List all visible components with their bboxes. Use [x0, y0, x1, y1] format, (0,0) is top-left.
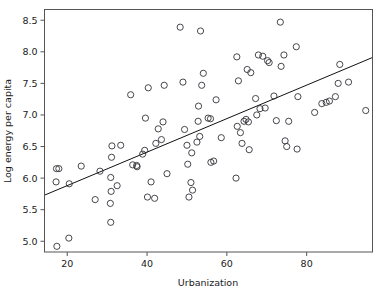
data-point: [234, 123, 240, 129]
data-point: [152, 195, 158, 201]
data-point: [148, 179, 154, 185]
data-point: [295, 94, 301, 100]
y-tick-label: 5.0: [22, 236, 37, 247]
data-point: [142, 147, 148, 153]
data-point: [239, 140, 245, 146]
data-point: [195, 118, 201, 124]
data-point: [363, 107, 369, 113]
data-point: [271, 93, 277, 99]
data-point: [108, 219, 114, 225]
data-point: [335, 80, 341, 86]
data-point: [277, 19, 283, 25]
data-point: [189, 150, 195, 156]
plot-frame: [45, 10, 373, 253]
scatter-plot-figure: 5.05.56.06.57.07.58.08.5 20406080 Urbani…: [0, 0, 388, 293]
y-axis-title: Log energy per capita: [2, 79, 13, 183]
x-axis-title: Urbanization: [178, 277, 238, 288]
data-point: [266, 59, 272, 65]
data-point: [189, 187, 195, 193]
data-point: [108, 188, 114, 194]
data-point: [332, 94, 338, 100]
data-point: [188, 179, 194, 185]
fit-line: [45, 57, 373, 195]
x-axis-ticks: 20406080: [61, 252, 313, 269]
data-point: [142, 115, 148, 121]
data-point: [255, 52, 261, 58]
y-tick-label: 7.5: [22, 78, 37, 89]
data-point: [181, 126, 187, 132]
data-point: [273, 118, 279, 124]
data-point: [194, 139, 200, 145]
data-point: [237, 130, 243, 136]
data-point: [281, 52, 287, 58]
data-point: [164, 171, 170, 177]
regression-line: [45, 57, 373, 195]
data-point: [345, 79, 351, 85]
data-point: [177, 24, 183, 30]
plot-canvas: 5.05.56.06.57.07.58.08.5 20406080 Urbani…: [0, 0, 388, 293]
data-point: [218, 135, 224, 141]
data-point: [252, 95, 258, 101]
y-tick-label: 6.5: [22, 141, 37, 152]
data-point: [54, 243, 60, 249]
data-point: [234, 54, 240, 60]
data-point: [78, 163, 84, 169]
data-point: [195, 103, 201, 109]
x-tick-label: 40: [141, 258, 153, 269]
data-point: [282, 138, 288, 144]
data-point: [128, 92, 134, 98]
data-point: [278, 63, 284, 69]
data-point: [108, 174, 114, 180]
data-point: [160, 119, 166, 125]
data-point: [199, 82, 205, 88]
data-point: [184, 142, 190, 148]
y-tick-label: 8.0: [22, 46, 37, 57]
data-point: [264, 58, 270, 64]
data-point: [200, 70, 206, 76]
y-axis-ticks: 5.05.56.06.57.07.58.08.5: [22, 15, 44, 247]
data-point: [197, 133, 203, 139]
data-points-group: [53, 19, 369, 249]
data-point: [180, 79, 186, 85]
data-point: [254, 112, 260, 118]
data-point: [118, 142, 124, 148]
data-point: [185, 161, 191, 167]
x-tick-label: 20: [61, 258, 73, 269]
data-point: [312, 109, 318, 115]
data-point: [284, 143, 290, 149]
data-point: [145, 85, 151, 91]
data-point: [213, 97, 219, 103]
data-point: [114, 183, 120, 189]
data-point: [294, 146, 300, 152]
data-point: [153, 140, 159, 146]
data-point: [337, 61, 343, 67]
x-tick-label: 60: [221, 258, 233, 269]
data-point: [108, 154, 114, 160]
y-tick-label: 7.0: [22, 109, 37, 120]
data-point: [107, 200, 113, 206]
data-point: [286, 118, 292, 124]
x-tick-label: 80: [301, 258, 313, 269]
y-tick-label: 6.0: [22, 173, 37, 184]
data-point: [155, 126, 161, 132]
data-point: [293, 44, 299, 50]
data-point: [197, 28, 203, 34]
data-point: [186, 194, 192, 200]
data-point: [246, 147, 252, 153]
data-point: [161, 82, 167, 88]
data-point: [109, 143, 115, 149]
data-point: [233, 175, 239, 181]
data-point: [92, 196, 98, 202]
data-point: [53, 179, 59, 185]
data-point: [158, 136, 164, 142]
data-point: [66, 235, 72, 241]
y-tick-label: 8.5: [22, 15, 37, 26]
data-point: [319, 100, 325, 106]
data-point: [144, 194, 150, 200]
y-tick-label: 5.5: [22, 204, 37, 215]
data-point: [235, 78, 241, 84]
